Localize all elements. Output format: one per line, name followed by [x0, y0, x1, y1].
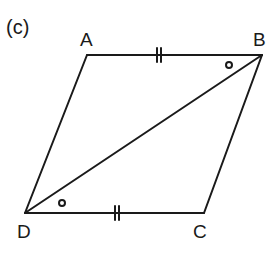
- side-da: [25, 55, 87, 213]
- vertex-label-d: D: [17, 222, 31, 241]
- vertex-label-b: B: [253, 30, 266, 49]
- angle-mark-d-icon: [59, 200, 65, 206]
- diagram-canvas: [0, 0, 277, 260]
- diagonal-db: [25, 55, 262, 213]
- angle-mark-b-icon: [226, 62, 232, 68]
- vertex-label-a: A: [80, 30, 93, 49]
- parallelogram-figure: (c) A B C D: [0, 0, 277, 260]
- panel-label: (c): [6, 17, 29, 37]
- side-bc: [204, 55, 262, 213]
- vertex-label-c: C: [193, 222, 207, 241]
